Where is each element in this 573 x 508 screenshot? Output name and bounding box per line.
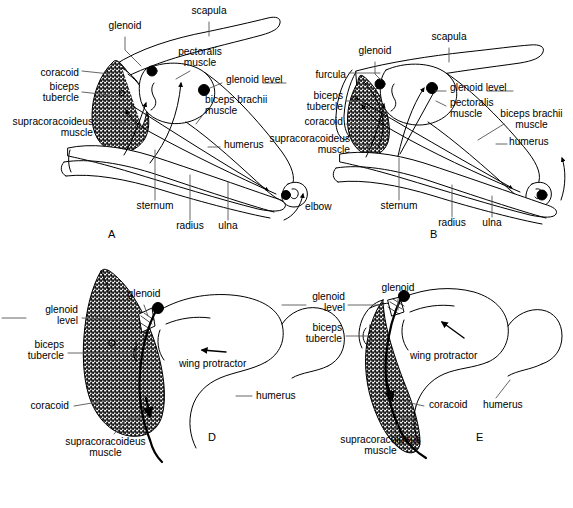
label-glenoid-d: glenoid	[104, 288, 184, 299]
label-coracoid-e: coracoid	[429, 399, 468, 410]
label-humerus-b: humerus	[509, 136, 549, 147]
panel-letter-b: B	[430, 228, 437, 240]
panel-letter-e: E	[476, 431, 483, 443]
label-supracoracoideus-muscle-d: supracoracoideus muscle	[52, 436, 159, 459]
label-ulna-b: ulna	[466, 217, 518, 228]
label-furcula-b: furcula	[280, 69, 346, 80]
label-elbow-a: elbow	[305, 201, 332, 212]
label-humerus-e: humerus	[483, 399, 523, 410]
label-biceps-tubercle-b: biceps tubercle	[280, 90, 343, 113]
label-pectoralis-muscle-a: pectoralis muscle	[160, 46, 240, 69]
label-coracoid-d: coracoid	[10, 400, 69, 411]
label-coracoid-a: coracoid	[0, 67, 79, 78]
label-coracoid-b: coracoid	[280, 116, 343, 127]
label-supracoracoideus-muscle-b: supracoracoideus muscle	[265, 133, 350, 156]
label-pectoralis-muscle-b: pectoralis muscle	[450, 97, 494, 120]
label-scapula-b: scapula	[409, 31, 489, 42]
label-glenoid-e: glenoid	[358, 282, 438, 293]
panel-b-artwork	[333, 45, 565, 224]
label-wing-protractor-e: wing protractor	[410, 350, 477, 361]
label-biceps-brachii-muscle-a: biceps brachii muscle	[205, 94, 267, 117]
label-glenoid-level-e: glenoid level	[282, 291, 345, 314]
label-ulna-a: ulna	[202, 220, 254, 231]
label-sternum-a: sternum	[118, 200, 192, 211]
anatomical-figure: scapula glenoid pectoralis muscle coraco…	[0, 0, 573, 508]
label-humerus-a: humerus	[224, 139, 264, 150]
label-glenoid-level-b: glenoid level	[450, 82, 507, 93]
label-biceps-tubercle-a: biceps tubercle	[0, 81, 79, 104]
label-sternum-b: sternum	[362, 200, 436, 211]
label-glenoid-a: glenoid	[85, 20, 165, 31]
label-supracoracoideus-muscle-e: supracoracoideus muscle	[327, 434, 434, 457]
label-scapula-a: scapula	[169, 5, 249, 16]
panel-letter-a: A	[108, 228, 115, 240]
panel-e-artwork	[359, 289, 562, 458]
label-glenoid-level-a: glenoid level	[226, 74, 283, 85]
panel-letter-d: D	[208, 431, 216, 443]
label-supracoracoideus-muscle-a: supracoracoideus muscle	[0, 116, 93, 139]
label-biceps-tubercle-d: biceps tubercle	[0, 339, 64, 362]
label-biceps-brachii-muscle-b: biceps brachii muscle	[490, 108, 573, 131]
label-biceps-tubercle-e: biceps tubercle	[278, 322, 342, 345]
label-wing-protractor-d: wing protractor	[179, 358, 246, 369]
label-glenoid-b: glenoid	[335, 45, 415, 56]
label-glenoid-level-d: glenoid level	[15, 304, 78, 327]
label-humerus-d: humerus	[256, 390, 296, 401]
